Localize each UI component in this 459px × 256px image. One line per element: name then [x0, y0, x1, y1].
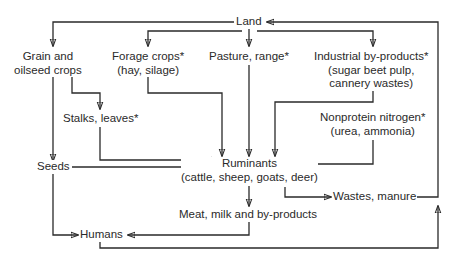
edge-land-grain — [53, 22, 234, 46]
ruminant-feed-flow-diagram: Land Grain and oilseed crops Forage crop… — [0, 0, 459, 256]
node-wastes-label: Wastes, manure — [333, 190, 416, 204]
node-humans: Humans — [80, 228, 123, 242]
node-land: Land — [236, 15, 262, 29]
node-industrial-by-products: Industrial by-products* (sugar beet pulp… — [314, 50, 428, 91]
edge-meat-humans — [128, 222, 249, 235]
node-meat-label: Meat, milk and by-products — [179, 208, 317, 222]
node-nonprotein-nitrogen: Nonprotein nitrogen* (urea, ammonia) — [320, 111, 426, 138]
node-land-label: Land — [236, 15, 262, 29]
node-industrial-line-3: cannery wastes) — [314, 77, 428, 91]
node-nonprotein-line-1: Nonprotein nitrogen* — [320, 111, 426, 125]
node-pasture-label: Pasture, range* — [209, 50, 289, 64]
edge-stalks-ruminants — [100, 127, 218, 160]
edge-seeds-humans — [53, 174, 78, 235]
edge-land-industrial — [257, 31, 373, 46]
node-humans-label: Humans — [80, 228, 123, 242]
node-grain-oilseed-crops: Grain and oilseed crops — [14, 50, 82, 77]
node-forage-line-1: Forage crops* — [112, 50, 184, 64]
edge-land-forage — [148, 31, 242, 46]
node-nonprotein-line-2: (urea, ammonia) — [320, 125, 426, 139]
edge-ruminants-wastes — [285, 187, 331, 197]
node-grain-line-2: oilseed crops — [14, 64, 82, 78]
node-industrial-line-1: Industrial by-products* — [314, 50, 428, 64]
node-pasture-range: Pasture, range* — [209, 50, 289, 64]
node-forage-crops: Forage crops* (hay, silage) — [112, 50, 184, 77]
node-seeds: Seeds — [37, 160, 70, 174]
node-wastes-manure: Wastes, manure — [333, 190, 416, 204]
node-industrial-line-2: (sugar beet pulp, — [314, 64, 428, 78]
node-grain-line-1: Grain and — [14, 50, 82, 64]
node-ruminants-line-2: (cattle, sheep, goats, deer) — [181, 171, 318, 185]
edge-grain-stalks — [72, 77, 100, 109]
node-forage-line-2: (hay, silage) — [112, 64, 184, 78]
node-ruminants-line-1: Ruminants — [181, 157, 318, 171]
node-meat-milk-by-products: Meat, milk and by-products — [179, 208, 317, 222]
node-stalks-leaves: Stalks, leaves* — [63, 112, 138, 126]
node-seeds-label: Seeds — [37, 160, 70, 174]
node-ruminants: Ruminants (cattle, sheep, goats, deer) — [181, 157, 318, 184]
node-stalks-label: Stalks, leaves* — [63, 112, 138, 126]
edge-forage-ruminants — [148, 77, 222, 156]
